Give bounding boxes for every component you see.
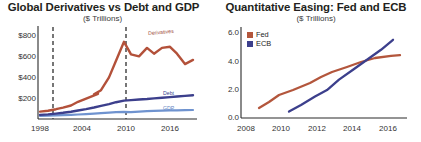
chart-panel-quantitative-easing: Quantitative Easing: Fed and ECB ($ Tril… <box>211 0 421 142</box>
series-line-fed <box>259 55 400 108</box>
plot-area-left <box>0 0 211 142</box>
dual-chart-figure: Global Derivatives vs Debt and GDP ($ Tr… <box>0 0 421 142</box>
series-line-ecb <box>289 40 393 112</box>
plot-area-right <box>211 0 421 142</box>
chart-panel-global-derivatives: Global Derivatives vs Debt and GDP ($ Tr… <box>0 0 211 142</box>
